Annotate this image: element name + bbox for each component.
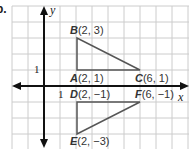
y-axis (40, 6, 48, 148)
point-name-f: F (135, 88, 142, 100)
x-tick-label-1: 1 (58, 89, 64, 100)
point-coords-b: (2, 3) (78, 24, 104, 36)
y-axis-up-arrow-icon (40, 6, 48, 15)
point-name-c: C (135, 72, 143, 84)
point-name-d: D (70, 88, 78, 100)
point-coords-e: (2, −3) (77, 135, 109, 147)
x-axis-left-arrow-icon (12, 82, 21, 90)
point-label-d: D(2, −1) (70, 89, 110, 100)
point-label-e: E(2, −3) (70, 136, 109, 147)
point-label-c: C(6, 1) (135, 73, 169, 84)
point-name-a: A (70, 72, 78, 84)
point-name-b: B (70, 24, 78, 36)
point-coords-f: (6, −1) (142, 88, 174, 100)
point-label-a: A(2, 1) (70, 73, 104, 84)
point-label-f: F(6, −1) (135, 89, 174, 100)
y-axis-down-arrow-icon (40, 139, 48, 148)
point-label-b: B(2, 3) (70, 25, 104, 36)
point-coords-d: (2, −1) (78, 88, 110, 100)
x-axis-label: x (178, 91, 183, 103)
point-coords-a: (2, 1) (78, 72, 104, 84)
point-coords-c: (6, 1) (143, 72, 169, 84)
y-tick-label-1: 1 (34, 64, 40, 75)
y-axis-label: y (50, 4, 55, 16)
